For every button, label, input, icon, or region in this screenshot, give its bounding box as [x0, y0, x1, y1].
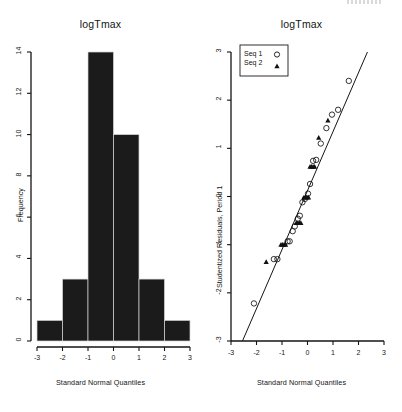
- qqplot-y-tick-label: -2: [215, 284, 222, 298]
- histogram-y-tick-label: 8: [15, 167, 22, 181]
- histogram-bar: [165, 320, 191, 341]
- qqplot-x-tick-label: 0: [298, 349, 318, 356]
- qqplot-x-tick-label: 1: [323, 349, 343, 356]
- qqplot-x-tick-label: 2: [349, 349, 369, 356]
- histogram-x-tick-label: 0: [104, 354, 124, 361]
- histogram-canvas: [0, 0, 201, 412]
- histogram-bar: [88, 52, 114, 341]
- qqplot-y-tick-label: -1: [215, 236, 222, 250]
- triangle-marker: [325, 118, 330, 123]
- circle-marker: [313, 157, 318, 162]
- histogram-x-tick-label: -3: [27, 354, 47, 361]
- histogram-bar: [114, 135, 140, 341]
- qqplot-y-tick-label: 0: [215, 188, 222, 202]
- histogram-y-tick-label: 6: [15, 209, 22, 223]
- circle-marker: [318, 141, 323, 146]
- qqplot-y-tick-label: 3: [215, 44, 222, 58]
- histogram-x-tick-label: -2: [53, 354, 73, 361]
- histogram-bar: [37, 320, 63, 341]
- histogram-x-tick-label: 3: [180, 354, 200, 361]
- histogram-x-tick-label: -1: [78, 354, 98, 361]
- triangle-marker: [316, 135, 321, 140]
- histogram-bar: [139, 279, 165, 341]
- legend-label-seq1: Seq 1: [244, 50, 262, 57]
- qqplot-x-tick-label: -2: [247, 349, 267, 356]
- circle-marker: [346, 78, 351, 83]
- histogram-y-tick-label: 4: [15, 250, 22, 264]
- qqplot-y-tick-label: 2: [215, 92, 222, 106]
- histogram-bar: [63, 279, 89, 341]
- qqplot-x-tick-label: -3: [221, 349, 241, 356]
- histogram-y-tick-label: 2: [15, 291, 22, 305]
- histogram-xaxis-title: Standard Normal Quantiles: [0, 378, 201, 387]
- circle-marker: [329, 112, 334, 117]
- qqplot-x-tick-label: -1: [272, 349, 292, 356]
- histogram-x-tick-label: 1: [129, 354, 149, 361]
- histogram-y-tick-label: 10: [15, 126, 22, 140]
- histogram-y-tick-label: 14: [15, 44, 22, 58]
- circle-marker: [324, 125, 329, 130]
- histogram-y-tick-label: 12: [15, 85, 22, 99]
- qqplot-data-points: [251, 78, 351, 306]
- top-edge-artifact: [347, 0, 383, 4]
- histogram-y-tick-label: 0: [15, 333, 22, 347]
- qqplot-y-tick-label: -3: [215, 333, 222, 347]
- circle-marker: [251, 301, 256, 306]
- histogram-panel: logTmax Standard Normal Quantiles Freque…: [0, 0, 201, 412]
- qqplot-panel: logTmax Standard Normal Quantiles Studen…: [201, 0, 402, 412]
- qqplot-xaxis-title: Standard Normal Quantiles: [201, 378, 402, 387]
- circle-marker: [335, 107, 340, 112]
- histogram-x-tick-label: 2: [155, 354, 175, 361]
- qqplot-y-tick-label: 1: [215, 140, 222, 154]
- triangle-marker: [264, 259, 269, 264]
- histogram-bars: [37, 52, 190, 341]
- qqplot-x-tick-label: 3: [374, 349, 394, 356]
- legend-label-seq2: Seq 2: [244, 59, 262, 66]
